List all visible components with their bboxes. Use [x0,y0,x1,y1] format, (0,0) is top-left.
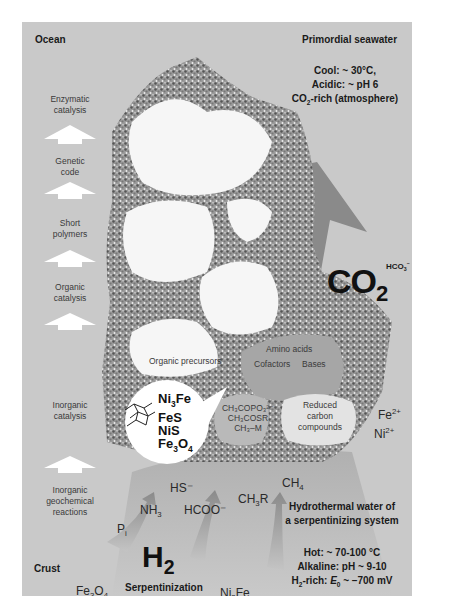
awaruite-label: Ni3Fe [220,586,250,596]
stage-enzymatic-catalysis: Enzymaticcatalysis [30,94,110,116]
iron-ion-label: Fe2+ [378,407,401,422]
formate-label: HCOO⁻ [184,503,226,517]
bases-label: Bases [302,359,326,370]
hydrothermal-origin-of-life-diagram: Ocean Primordial seawater Crust Cool: ~ … [22,22,412,596]
organic-precursors-label: Organic precursors [149,356,221,367]
seawater-ph: Acidic: ~ pH 6 [280,78,410,92]
reduced-carbon-text: Reduced carbon compounds [290,400,350,433]
hydrothermal-conditions: Hot: ~ 70-100 °C Alkaline: pH ~ 9-10 H2-… [274,546,410,592]
nickel-ion-label: Ni2+ [374,426,394,441]
methyl-r-label: CH3R [238,492,268,508]
compartment-genetic [123,201,215,282]
hydrosulfide-label: HS⁻ [170,481,193,495]
amino-acids-label: Amino acids [266,344,312,355]
seawater-conditions: Cool: ~ 30°C, Acidic: ~ pH 6 CO2-rich (a… [280,64,410,110]
stage-short-polymers: Shortpolymers [30,218,110,240]
ammonia-label: NH3 [140,503,162,519]
fes-cluster-icon [122,400,158,430]
seawater-co2: CO2-rich (atmosphere) [280,92,410,110]
stage-genetic-code: Geneticcode [30,156,110,178]
bicarbonate-label: HCO3– [386,260,410,272]
thioester-compartment-text: CH₃COPO₃²⁻ CH₃COSR CH₃–M [218,403,278,433]
primordial-seawater-label: Primordial seawater [302,34,397,45]
compartment-short-polymers [200,261,279,334]
co2-label: CO2 [327,262,387,307]
crust-label: Crust [34,563,60,574]
ocean-label: Ocean [35,34,66,45]
phosphate-label: Pi [117,522,127,538]
stage-inorganic-catalysis: Inorganiccatalysis [30,400,110,422]
minerals-list: Ni3Fe FeS NiS Fe3O4 [158,392,193,455]
methane-label: CH4 [282,476,304,492]
stage-organic-catalysis: Organiccatalysis [30,282,110,304]
cofactors-label: Cofactors [254,359,290,370]
seawater-temp: Cool: ~ 30°C, [280,64,410,78]
stage-inorganic-geochemical-reactions: Inorganicgeochemicalreactions [30,485,110,518]
hydrothermal-title: Hydrothermal water of a serpentinizing s… [274,500,410,528]
magnetite-label: Fe3O4 [76,584,108,596]
serpentinization-label: Serpentinization [125,582,203,593]
hydrogen-label: H2 [142,540,175,579]
